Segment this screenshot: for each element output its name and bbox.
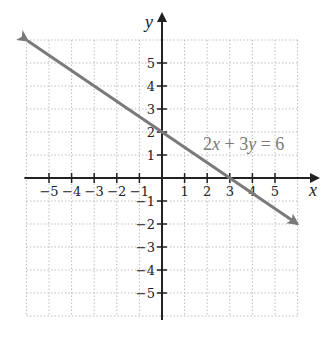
equation-label: 2x + 3y = 6 — [203, 134, 284, 154]
x-tick-label: 1 — [180, 184, 188, 199]
x-tick-label: 3 — [226, 184, 234, 199]
x-tick-label: 2 — [203, 184, 211, 199]
eq-part: = 6 — [256, 134, 284, 154]
x-tick-label: −4 — [62, 184, 81, 199]
eq-var-y: y — [246, 134, 256, 154]
y-tick-label: 5 — [147, 56, 155, 71]
coordinate-plane: −5−4−3−2−112345 54321−1−2−3−4−5 y x 2x +… — [0, 0, 336, 342]
y-tick-label: −2 — [136, 217, 155, 232]
x-tick-label: −5 — [39, 184, 58, 199]
eq-var-x: x — [211, 134, 220, 154]
x-tick-label: 5 — [271, 184, 279, 199]
y-tick-label: −5 — [136, 286, 155, 301]
x-axis-label: x — [308, 180, 317, 200]
axes — [24, 14, 318, 320]
y-tick-label: 3 — [147, 102, 155, 117]
y-tick-label: 4 — [147, 79, 155, 94]
y-tick-label: 1 — [147, 148, 155, 163]
eq-part: + 3 — [220, 134, 248, 154]
y-axis-label: y — [143, 12, 153, 32]
y-tick-label: −4 — [136, 263, 155, 278]
x-tick-label: −2 — [107, 184, 126, 199]
y-tick-label: −3 — [136, 240, 155, 255]
eq-part: 2 — [203, 134, 212, 154]
x-tick-label: −3 — [85, 184, 104, 199]
y-tick-label: −1 — [136, 194, 155, 209]
